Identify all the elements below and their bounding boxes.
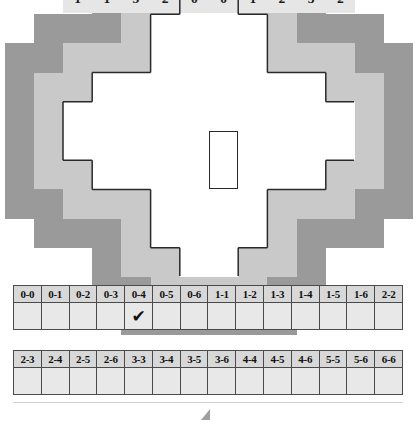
checklist-label-5-6: 5-6 (347, 351, 375, 368)
grid-frame-cell (34, 102, 63, 131)
checklist-label-0-5: 0-5 (152, 286, 180, 303)
checklist-label-0-3: 0-3 (97, 286, 125, 303)
grid-cell-r9-c4[interactable]: 0 (180, 0, 209, 13)
checklist-cell-0-3[interactable] (97, 303, 125, 330)
grid-frame-cell (326, 73, 355, 102)
checklist-cell-0-5[interactable] (152, 303, 180, 330)
checklist-cell-1-3[interactable] (264, 303, 292, 330)
checklist-label-0-6: 0-6 (180, 286, 208, 303)
checklist-cell-2-2[interactable] (375, 303, 403, 330)
grid-frame-cell (384, 73, 413, 102)
grid-frame-cell (297, 189, 326, 218)
grid-frame-cell (297, 43, 326, 72)
grid-frame-cell (63, 73, 92, 102)
grid-frame-cell (355, 189, 384, 218)
grid-frame-cell (326, 160, 355, 189)
grid-cell-r8-c6[interactable]: 1 (238, 0, 267, 13)
checklist-cell-5-5[interactable] (319, 368, 347, 395)
domino-checklist-row2: 2-32-42-52-63-33-43-53-64-44-54-65-55-66… (13, 350, 403, 395)
grid-frame-cell (34, 189, 63, 218)
checklist-cell-1-4[interactable] (291, 303, 319, 330)
grid-cell-r6-c8[interactable]: 3 (297, 0, 326, 13)
checklist-mark-row-2 (14, 368, 403, 395)
grid-frame-cell (121, 219, 150, 248)
grid-frame-cell (384, 131, 413, 160)
checklist-label-2-3: 2-3 (14, 351, 42, 368)
checklist-label-2-6: 2-6 (97, 351, 125, 368)
checklist-label-4-6: 4-6 (291, 351, 319, 368)
checklist-cell-3-6[interactable] (208, 368, 236, 395)
grid-frame-cell (384, 43, 413, 72)
grid-frame-cell (34, 14, 63, 43)
grid-frame-cell (63, 189, 92, 218)
grid-frame-cell (121, 189, 150, 218)
checklist-header-row-2: 2-32-42-52-63-33-43-53-64-44-54-65-55-66… (14, 351, 403, 368)
grid-frame-cell (63, 14, 92, 43)
checklist-cell-2-5[interactable] (69, 368, 97, 395)
checklist-label-3-6: 3-6 (208, 351, 236, 368)
checklist-label-2-4: 2-4 (41, 351, 69, 368)
grid-frame-cell (297, 219, 326, 248)
checklist-cell-6-6[interactable] (375, 368, 403, 395)
grid-cell-r5-c9[interactable]: 2 (326, 0, 355, 13)
grid-frame-cell (34, 131, 63, 160)
checklist-cell-0-1[interactable] (41, 303, 69, 330)
grid-frame-cell (267, 219, 296, 248)
checklist-cell-3-3[interactable] (125, 368, 153, 395)
checklist-cell-0-0[interactable] (14, 303, 42, 330)
checklist-cell-4-5[interactable] (264, 368, 292, 395)
grid-cell-r6-c7[interactable]: 2 (267, 0, 296, 13)
checklist-cell-4-6[interactable] (291, 368, 319, 395)
grid-frame-cell (355, 102, 384, 131)
grid-cell-r5-c0[interactable]: 1 (63, 0, 92, 13)
grid-frame-cell (34, 73, 63, 102)
checklist-cell-3-5[interactable] (180, 368, 208, 395)
grid-frame-cell (5, 102, 34, 131)
grid-cell-r6-c2[interactable]: 5 (121, 0, 150, 13)
checklist-cell-0-6[interactable] (180, 303, 208, 330)
grid-frame-cell (92, 248, 121, 277)
grid-frame-cell (355, 131, 384, 160)
checklist-header-row-1: 0-00-10-20-30-40-50-61-11-21-31-41-51-62… (14, 286, 403, 303)
checklist-label-6-6: 6-6 (375, 351, 403, 368)
checklist-cell-1-2[interactable] (236, 303, 264, 330)
grid-frame-cell (92, 43, 121, 72)
checklist-label-1-3: 1-3 (264, 286, 292, 303)
checklist-cell-2-4[interactable] (41, 368, 69, 395)
grid-frame-cell (5, 131, 34, 160)
grid-frame-cell (267, 189, 296, 218)
checklist-cell-0-4[interactable]: ✔ (125, 303, 153, 330)
page-corner-artifact (201, 409, 210, 420)
domino-checklist-row1: 0-00-10-20-30-40-50-61-11-21-31-41-51-62… (13, 285, 403, 330)
grid-frame-cell (267, 14, 296, 43)
grid-frame-cell (355, 219, 384, 248)
grid-cell-r9-c5[interactable]: 0 (209, 0, 238, 13)
grid-cell-r8-c3[interactable]: 2 (151, 0, 180, 13)
grid-frame-cell (384, 102, 413, 131)
grid-frame-cell (297, 248, 326, 277)
checklist-cell-4-4[interactable] (236, 368, 264, 395)
grid-frame-cell (267, 248, 296, 277)
checklist-cell-1-6[interactable] (347, 303, 375, 330)
grid-frame-cell (326, 219, 355, 248)
checklist-label-0-2: 0-2 (69, 286, 97, 303)
grid-frame-cell (326, 189, 355, 218)
checklist-label-1-5: 1-5 (319, 286, 347, 303)
checklist-cell-2-6[interactable] (97, 368, 125, 395)
grid-cell-r6-c1[interactable]: 1 (92, 0, 121, 13)
grid-frame-cell (151, 248, 180, 277)
checklist-cell-1-5[interactable] (319, 303, 347, 330)
grid-frame-cell (63, 43, 92, 72)
checklist-cell-2-3[interactable] (14, 368, 42, 395)
checklist-cell-3-4[interactable] (152, 368, 180, 395)
checklist-cell-0-2[interactable] (69, 303, 97, 330)
checklist-label-1-4: 1-4 (291, 286, 319, 303)
checklist-cell-1-1[interactable] (208, 303, 236, 330)
grid-frame-cell (5, 160, 34, 189)
grid-frame-cell (5, 73, 34, 102)
grid-frame-cell (92, 14, 121, 43)
grid-frame-cell (355, 73, 384, 102)
grid-frame-cell (34, 160, 63, 189)
checklist-cell-5-6[interactable] (347, 368, 375, 395)
grid-frame-cell (63, 219, 92, 248)
